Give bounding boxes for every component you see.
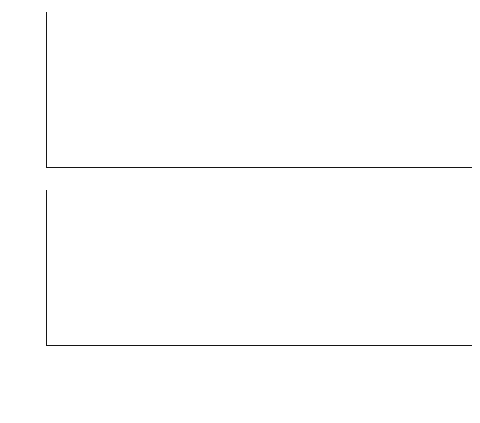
plot-area-top — [47, 12, 472, 167]
plot-area-bottom — [47, 190, 472, 345]
bar-series-bottom — [47, 190, 472, 345]
x-axis-line-top — [46, 167, 472, 168]
x-axis-line-bottom — [46, 345, 472, 346]
panel-transporters-per-mb — [0, 186, 480, 356]
bar-series-top — [47, 12, 472, 167]
panel-number-of-transporters — [0, 0, 480, 186]
x-axis-species-labels — [0, 353, 480, 423]
transporter-figure — [0, 0, 480, 423]
